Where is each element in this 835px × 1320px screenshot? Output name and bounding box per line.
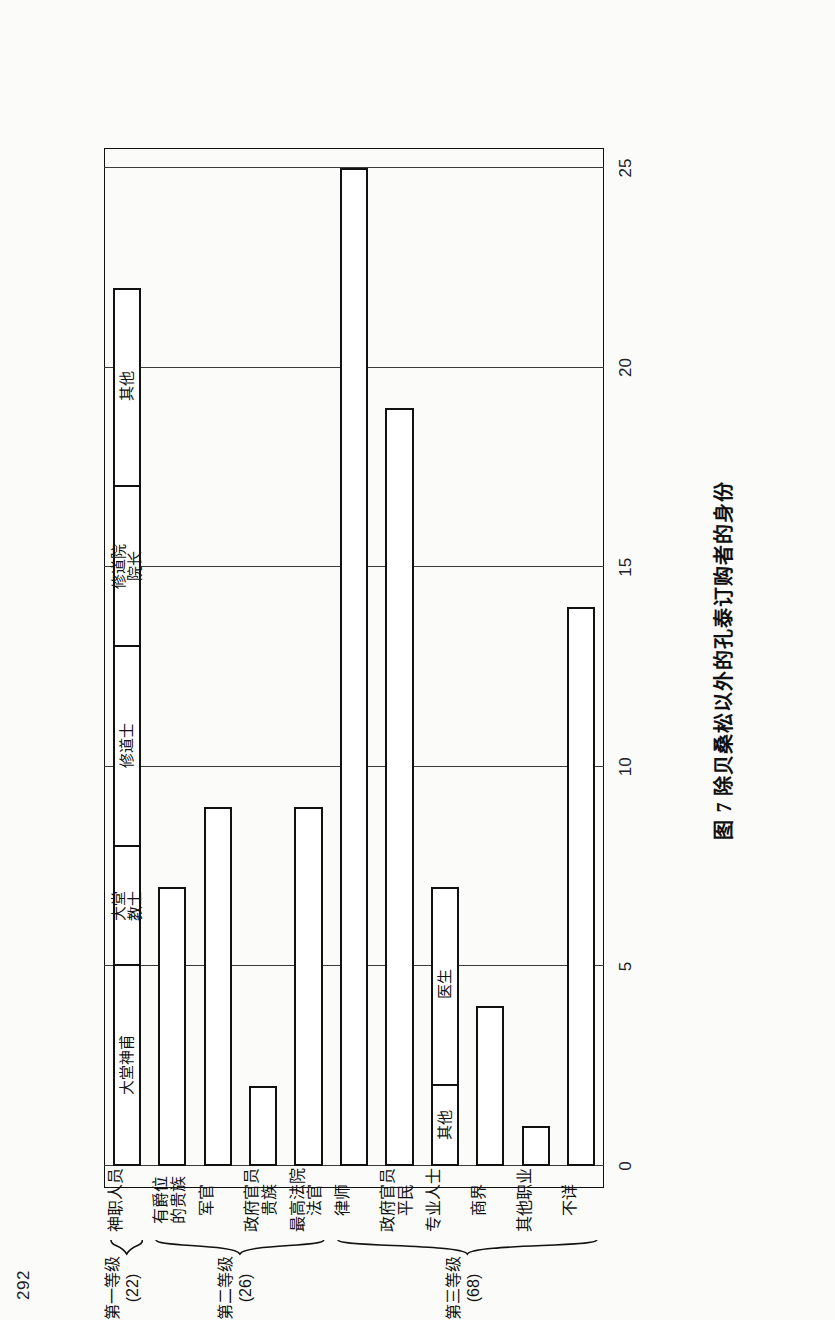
- group-brace: [337, 1238, 598, 1256]
- axis-tick-label: 25: [616, 158, 636, 177]
- bar: [567, 607, 595, 1166]
- page-number: 292: [14, 1240, 74, 1300]
- axis-tick-label: 0: [616, 1161, 636, 1170]
- bar: [158, 886, 186, 1165]
- category-label: 专业人士: [424, 1168, 442, 1232]
- bar-segment: 大堂神甫: [114, 964, 138, 1164]
- bar: [521, 1126, 549, 1166]
- bar-segment: 修道士: [114, 645, 138, 845]
- bar: [339, 168, 367, 1166]
- bar: [249, 1086, 277, 1166]
- bar: [385, 407, 413, 1165]
- category-label: 其他职业: [515, 1168, 533, 1232]
- category-label: 军官: [197, 1184, 215, 1216]
- category-label: 最高法院 法官: [288, 1168, 324, 1232]
- bar: 其他医生: [430, 886, 458, 1165]
- bar: 大堂神甫大堂 教士修道士修道院 院长其他: [112, 287, 140, 1165]
- bar-segment: 医生: [432, 884, 456, 1084]
- group-brace: [110, 1238, 143, 1256]
- category-label: 神职人员: [106, 1168, 124, 1232]
- axis-tick-label: 20: [616, 358, 636, 377]
- bar-segment: 其他: [114, 285, 138, 485]
- category-label: 政府官员 贵族: [243, 1168, 279, 1232]
- bar-segment: 其他: [432, 1084, 456, 1164]
- category-label: 政府官员 平民: [379, 1168, 415, 1232]
- category-label: 不详: [561, 1184, 579, 1216]
- category-label: 律师: [334, 1184, 352, 1216]
- category-label: 商界: [470, 1184, 488, 1216]
- bar: [294, 806, 322, 1165]
- category-label: 有爵位 的贵族: [152, 1176, 188, 1224]
- tier-label: 第二等级 (26): [216, 1256, 256, 1320]
- axis-tick-label: 5: [616, 961, 636, 970]
- tier-label: 第一等级 (22): [102, 1256, 142, 1320]
- figure-caption: 图 7 除贝桑松以外的孔泰订购者的身份: [708, 70, 737, 1250]
- bar-segment: 大堂 教士: [114, 844, 138, 964]
- bar-segment: 修道院 院长: [114, 485, 138, 645]
- axis-tick-label: 15: [616, 557, 636, 576]
- group-brace: [155, 1238, 325, 1256]
- axis-tick-label: 10: [616, 757, 636, 776]
- bar: [476, 1006, 504, 1166]
- tier-label: 第三等级 (68): [443, 1256, 483, 1320]
- chart-stage: 2520151050 大堂神甫大堂 教士修道士修道院 院长其他其他医生 神职人员…: [68, 70, 768, 1250]
- bar: [203, 806, 231, 1165]
